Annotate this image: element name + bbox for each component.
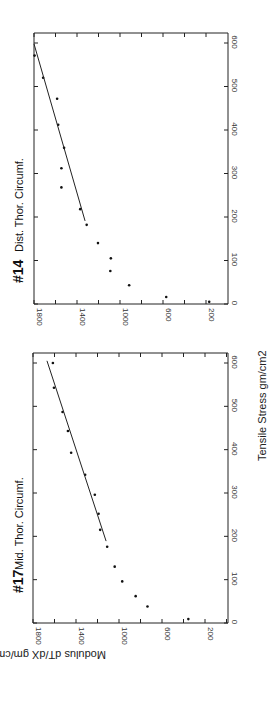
panel-14-title-text: Dist. Thor. Circumf.: [13, 158, 25, 252]
modulus-tick-label: 1000: [121, 308, 130, 326]
panel-17-title-number: #17: [10, 569, 26, 593]
data-point: [94, 493, 97, 496]
stress-tick-label: 100: [230, 253, 239, 267]
data-point: [109, 270, 112, 273]
panel-17-frame: [33, 353, 228, 623]
data-point: [99, 529, 102, 532]
data-point: [67, 430, 70, 433]
data-point: [53, 386, 56, 389]
data-point: [106, 545, 109, 548]
stress-tick-label: 600: [230, 355, 239, 369]
panel-17-fit-line: [47, 361, 106, 541]
y-axis-title-modulus: Modulus dT/dX gm/cm2: [0, 649, 106, 661]
data-point: [187, 618, 190, 621]
data-point: [33, 54, 36, 57]
panel-17-data-points: [52, 362, 190, 621]
data-point: [165, 296, 168, 299]
panel-17-title-text: Mid. Thor. Circumf.: [13, 477, 25, 570]
data-point: [60, 186, 63, 189]
figure-canvas: 1800140010006002000100200300400500600 #1…: [0, 0, 272, 713]
data-point: [121, 580, 124, 583]
stress-tick-label: 400: [230, 122, 239, 136]
panel-14-frame: [34, 33, 228, 304]
data-point: [56, 97, 59, 100]
stress-tick-label: 300: [230, 485, 239, 499]
panel-14-title-number: #14: [10, 259, 26, 283]
stress-tick-label: 400: [230, 442, 239, 456]
panel-14-data-points: [33, 54, 210, 303]
data-point: [208, 301, 211, 304]
stress-tick-label: 100: [230, 572, 239, 586]
modulus-tick-label: 200: [206, 627, 215, 641]
modulus-tick-label: 1400: [78, 308, 87, 326]
stress-tick-label: 200: [230, 209, 239, 223]
data-point: [85, 224, 88, 227]
panel-14-dist-thor-circumf: 1800140010006002000100200300400500600 #1…: [10, 33, 239, 326]
panel-17-ticks: 1800140010006002000100200300400500600: [33, 353, 239, 645]
data-point: [146, 605, 149, 608]
stress-tick-label: 300: [230, 166, 239, 180]
stress-tick-label: 500: [230, 399, 239, 413]
panel-14-fit-line: [34, 44, 85, 221]
data-point: [128, 284, 131, 287]
data-point: [110, 257, 113, 260]
modulus-tick-label: 1400: [77, 627, 86, 645]
modulus-tick-label: 600: [163, 627, 172, 641]
data-point: [97, 242, 100, 245]
stress-tick-label: 0: [230, 620, 239, 625]
stress-tick-label: 500: [230, 79, 239, 93]
modulus-tick-label: 600: [164, 308, 173, 322]
data-point: [70, 451, 73, 454]
data-point: [60, 167, 63, 170]
data-point: [52, 362, 55, 365]
stress-tick-label: 0: [230, 301, 239, 306]
modulus-tick-label: 1000: [120, 627, 129, 645]
stress-tick-label: 600: [230, 35, 239, 49]
modulus-tick-label: 200: [207, 308, 216, 322]
x-axis-title-tensile-stress: Tensile Stress gm/cm2: [256, 350, 268, 461]
data-point: [113, 565, 116, 568]
stress-tick-label: 200: [230, 529, 239, 543]
data-point: [134, 595, 137, 598]
panel-14-ticks: 1800140010006002000100200300400500600: [34, 33, 239, 326]
modulus-tick-label: 1800: [34, 627, 43, 645]
panel-17-mid-thor-circumf: 1800140010006002000100200300400500600 #1…: [10, 353, 239, 645]
modulus-tick-label: 1800: [35, 308, 44, 326]
